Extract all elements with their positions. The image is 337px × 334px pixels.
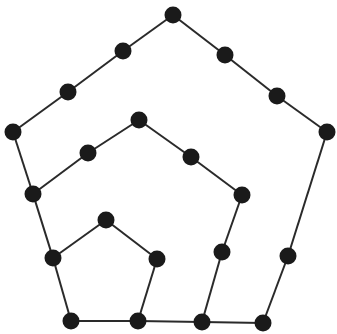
graph-node: [183, 149, 200, 166]
graph-edge: [138, 259, 157, 321]
graph-edge: [202, 252, 222, 322]
graph-node: [60, 84, 77, 101]
graph-node: [115, 43, 132, 60]
graph-node: [214, 244, 231, 261]
graph-edge: [139, 120, 191, 157]
graph-edge: [202, 322, 263, 323]
graph-diagram: [0, 0, 337, 334]
graph-node: [80, 145, 97, 162]
graph-node: [25, 186, 42, 203]
graph-edge: [288, 132, 327, 256]
graph-edge: [13, 132, 33, 194]
graph-edge: [222, 195, 242, 252]
graph-edge: [277, 96, 327, 132]
graph-node: [63, 313, 80, 330]
graph-node: [5, 124, 22, 141]
graph-edge: [53, 258, 71, 321]
graph-node: [255, 315, 272, 332]
graph-node: [45, 250, 62, 267]
graph-edge: [225, 55, 277, 96]
graph-node: [280, 248, 297, 265]
graph-edge: [33, 153, 88, 194]
graph-node: [234, 187, 251, 204]
graph-edge: [263, 256, 288, 323]
graph-node: [165, 7, 182, 24]
graph-node: [319, 124, 336, 141]
graph-edge: [106, 220, 157, 259]
graph-edge: [33, 194, 53, 258]
graph-node: [130, 313, 147, 330]
graph-node: [194, 314, 211, 331]
graph-node: [131, 112, 148, 129]
graph-edge: [68, 51, 123, 92]
graph-node: [98, 212, 115, 229]
graph-node: [269, 88, 286, 105]
graph-edge: [13, 92, 68, 132]
graph-edge: [191, 157, 242, 195]
graph-node: [217, 47, 234, 64]
graph-edge: [173, 15, 225, 55]
graph-nodes: [5, 7, 336, 332]
graph-edge: [123, 15, 173, 51]
graph-edge: [53, 220, 106, 258]
graph-node: [149, 251, 166, 268]
graph-edge: [88, 120, 139, 153]
graph-edge: [138, 321, 202, 322]
graph-edges: [13, 15, 327, 323]
